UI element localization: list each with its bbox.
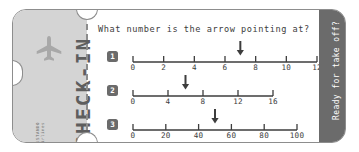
tick-label: 2: [161, 63, 166, 72]
number-line-2[interactable]: 0481216: [129, 75, 281, 109]
tick-label: 60: [227, 131, 237, 140]
number-line-tick-labels: 0481216: [129, 97, 281, 108]
tick-label: 0: [131, 63, 136, 72]
number-line-tick-labels: 024681012: [129, 63, 325, 74]
tick-label: 0: [131, 97, 136, 106]
tick-label: 8: [201, 97, 206, 106]
item-number-badge-2: 2: [107, 85, 118, 96]
down-arrow-icon: [211, 109, 218, 124]
number-line-row-1: 1 024681012: [91, 41, 319, 75]
airline-brand: JUSTANDO Airlines: [35, 100, 45, 143]
item-number-badge-1: 1: [107, 51, 118, 62]
tick-label: 4: [192, 63, 197, 72]
tick-label: 20: [161, 131, 171, 140]
tick-label: 80: [259, 131, 269, 140]
question-prompt: What number is the arrow pointing at?: [98, 24, 310, 34]
perforation-line: [86, 14, 88, 140]
tick-label: 100: [290, 131, 305, 140]
ready-strip: Ready for take off?: [319, 10, 345, 142]
boarding-pass-ticket: CHECK-IN JUSTANDO Airlines What number i…: [12, 9, 346, 143]
tick-label: 40: [194, 131, 204, 140]
ticket-main-content: What number is the arrow pointing at? 1 …: [91, 10, 319, 142]
stub-edge-notch: [12, 60, 23, 86]
tick-label: 16: [268, 97, 278, 106]
number-line-axis: [129, 75, 281, 99]
tick-label: 10: [281, 63, 291, 72]
airline-brand-line2: Airlines: [40, 100, 45, 143]
number-line-row-2: 2 0481216: [91, 75, 319, 109]
number-line-axis: [129, 41, 325, 65]
ticket-stub: CHECK-IN JUSTANDO Airlines: [13, 10, 87, 142]
number-line-tick-labels: 020406080100: [129, 131, 305, 142]
tick-label: 6: [223, 63, 228, 72]
tick-label: 12: [233, 97, 243, 106]
number-line-row-3: 3 020406080100: [91, 109, 319, 143]
ready-strip-label: Ready for take off?: [332, 21, 341, 120]
down-arrow-icon: [182, 75, 189, 90]
airplane-icon: [34, 34, 64, 64]
worksheet-canvas: CHECK-IN JUSTANDO Airlines What number i…: [0, 0, 359, 152]
tick-label: 4: [166, 97, 171, 106]
tick-label: 8: [253, 63, 258, 72]
down-arrow-icon: [237, 41, 244, 56]
tick-label: 0: [131, 131, 136, 140]
number-line-3[interactable]: 020406080100: [129, 109, 305, 143]
number-line-1[interactable]: 024681012: [129, 41, 325, 75]
item-number-badge-3: 3: [107, 119, 118, 130]
number-line-axis: [129, 109, 305, 133]
